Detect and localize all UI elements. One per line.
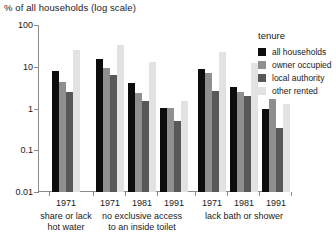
group-caption: share or lackhot water	[40, 211, 92, 232]
group-caption-line: to an inside toilet	[102, 222, 182, 233]
legend-label: local authority	[272, 73, 324, 83]
legend-swatch-icon	[258, 61, 266, 69]
chart-container: % of all households (log scale) 1001010.…	[0, 0, 336, 241]
x-tick-mark	[157, 192, 158, 196]
x-tick-mark	[227, 192, 228, 196]
bar	[52, 71, 59, 192]
bar	[174, 121, 181, 192]
bar	[205, 73, 212, 192]
legend-label: all households	[272, 47, 326, 57]
x-year-label: 1991	[164, 198, 184, 208]
plot-area: 1001010.10.01 19711971198119911971198119…	[38, 25, 268, 192]
bar	[149, 62, 156, 192]
bar	[198, 69, 205, 192]
group-caption-line: lack bath or shower	[205, 211, 283, 222]
legend-item[interactable]: owner occupied	[258, 60, 334, 70]
group-caption-line: hot water	[40, 222, 92, 233]
legend-item[interactable]: all households	[258, 47, 334, 57]
y-tick-label: 0.01	[15, 187, 33, 197]
bar	[59, 82, 66, 192]
y-tick-mark	[34, 109, 39, 110]
bar	[244, 96, 251, 192]
bar	[167, 108, 174, 192]
x-year-label: 1981	[132, 198, 152, 208]
bar	[96, 59, 103, 192]
bar	[142, 101, 149, 192]
bar	[230, 87, 237, 192]
bar	[181, 101, 188, 192]
bar	[103, 68, 110, 192]
group-caption-line: share or lack	[40, 211, 92, 222]
bar	[110, 75, 117, 192]
legend-rows: all householdsowner occupiedlocal author…	[258, 47, 334, 96]
x-tick-mark	[259, 192, 260, 196]
group-caption: lack bath or shower	[205, 211, 283, 222]
bar	[66, 92, 73, 192]
bar	[276, 128, 283, 192]
bar	[269, 99, 276, 192]
y-tick-label: 1	[28, 104, 33, 114]
legend-swatch-icon	[258, 87, 266, 95]
x-year-label: 1971	[202, 198, 222, 208]
y-tick-label: 10	[23, 62, 33, 72]
x-tick-mark	[49, 192, 50, 196]
x-year-label: 1971	[100, 198, 120, 208]
y-tick-mark	[34, 25, 39, 26]
bar	[219, 52, 226, 192]
x-tick-mark	[93, 192, 94, 196]
y-tick-mark	[34, 150, 39, 151]
legend-label: other rented	[272, 86, 318, 96]
x-year-label: 1991	[266, 198, 286, 208]
legend-item[interactable]: other rented	[258, 86, 334, 96]
y-tick-mark	[34, 192, 39, 193]
legend-item[interactable]: local authority	[258, 73, 334, 83]
y-tick-label: 100	[18, 20, 33, 30]
y-tick-label: 0.1	[20, 145, 33, 155]
bar	[283, 104, 290, 192]
x-year-label: 1981	[234, 198, 254, 208]
x-tick-mark	[291, 192, 292, 196]
x-tick-mark	[125, 192, 126, 196]
bar	[262, 109, 269, 193]
legend-title: tenure	[258, 30, 334, 41]
x-year-label: 1971	[56, 198, 76, 208]
group-caption: no exclusive accessto an inside toilet	[102, 211, 182, 232]
legend-swatch-icon	[258, 48, 266, 56]
bar	[251, 63, 258, 192]
legend-swatch-icon	[258, 74, 266, 82]
bar	[237, 92, 244, 192]
bar	[160, 108, 167, 192]
bar	[73, 50, 80, 192]
group-caption-line: no exclusive access	[102, 211, 182, 222]
y-axis-title: % of all households (log scale)	[4, 2, 136, 13]
legend-label: owner occupied	[272, 60, 332, 70]
bar	[135, 93, 142, 192]
bar	[128, 83, 135, 192]
x-tick-mark	[195, 192, 196, 196]
bar	[117, 45, 124, 192]
bar	[212, 91, 219, 192]
legend: tenure all householdsowner occupiedlocal…	[258, 30, 334, 99]
y-tick-mark	[34, 67, 39, 68]
